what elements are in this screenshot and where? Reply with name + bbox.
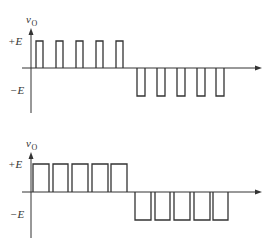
positive-level-label: +E xyxy=(8,158,22,170)
positive-pulse xyxy=(116,41,123,68)
positive-pulse xyxy=(33,164,49,192)
negative-pulse xyxy=(155,192,170,220)
positive-pulse xyxy=(72,164,88,192)
y-axis-subscript: O xyxy=(32,143,38,152)
positive-level-label: +E xyxy=(8,35,22,47)
positive-pulse xyxy=(36,41,43,68)
waveform-panel-top: vO+E−E xyxy=(8,13,262,113)
y-axis-label: v xyxy=(26,13,31,25)
y-axis-arrow-icon xyxy=(29,152,34,159)
negative-pulse xyxy=(213,192,228,220)
positive-pulse xyxy=(96,41,103,68)
negative-pulse xyxy=(157,68,165,96)
negative-pulse xyxy=(216,68,224,96)
y-axis-arrow-icon xyxy=(29,28,34,35)
x-axis-arrow-icon xyxy=(255,66,262,71)
negative-pulse xyxy=(174,192,190,220)
pulse-waveform-diagram: vO+E−EvO+E−E xyxy=(0,0,273,252)
positive-pulse xyxy=(53,164,68,192)
negative-pulse xyxy=(194,192,210,220)
positive-pulse xyxy=(56,41,63,68)
negative-pulse xyxy=(135,192,151,220)
waveform-panel-bottom: vO+E−E xyxy=(8,137,262,238)
positive-pulse xyxy=(111,164,127,192)
negative-level-label: −E xyxy=(10,208,24,220)
negative-level-label: −E xyxy=(10,84,24,96)
negative-pulse xyxy=(177,68,185,96)
y-axis-label: v xyxy=(26,137,31,149)
positive-pulse xyxy=(76,41,83,68)
positive-pulse xyxy=(92,164,108,192)
negative-pulse xyxy=(137,68,145,96)
negative-pulse xyxy=(197,68,205,96)
x-axis-arrow-icon xyxy=(255,190,262,195)
y-axis-subscript: O xyxy=(32,19,38,28)
